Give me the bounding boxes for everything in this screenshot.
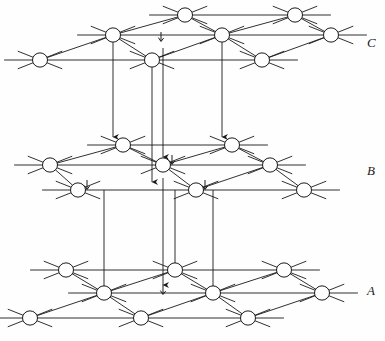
bond-stub-diagonal xyxy=(101,136,116,142)
bond-stub-diagonal xyxy=(163,6,178,12)
bond-stub-diagonal xyxy=(182,261,197,267)
bond-stub-diagonal xyxy=(192,6,207,12)
atom-node xyxy=(263,158,278,172)
layer-label-b: B xyxy=(367,164,375,177)
bond-stub-diagonal xyxy=(226,309,241,315)
atom-node xyxy=(168,263,183,277)
bond-stub-diagonal xyxy=(210,136,225,142)
bond-stub-diagonal xyxy=(170,168,185,174)
atom-node xyxy=(156,158,171,172)
bond-stub-diagonal xyxy=(240,63,255,69)
atom-node xyxy=(255,53,270,67)
bond-oblique xyxy=(192,19,216,32)
bond-stub-diagonal xyxy=(203,193,218,199)
bond-oblique xyxy=(119,39,145,56)
bond-stub-diagonal xyxy=(282,193,297,199)
bond-stub-diagonal xyxy=(47,63,62,69)
bond-stub-diagonal xyxy=(338,26,353,32)
bond-stub-diagonal xyxy=(174,181,189,187)
bond-stub-diagonal xyxy=(220,284,235,290)
atom-node xyxy=(288,8,303,22)
bond-stub-diagonal xyxy=(130,148,145,154)
bond-stub-diagonal xyxy=(141,168,156,174)
bond-stub-diagonal xyxy=(220,296,235,302)
bond-oblique xyxy=(120,17,178,33)
atom-node xyxy=(178,8,193,22)
bond-stub-diagonal xyxy=(309,38,324,44)
bond-stub-diagonal xyxy=(28,156,43,162)
bond-stub-diagonal xyxy=(159,51,174,57)
bond-stub-diagonal xyxy=(329,284,344,290)
bond-oblique xyxy=(110,297,135,314)
bond-oblique xyxy=(255,295,315,315)
atom-node xyxy=(215,28,230,42)
bond-stub-diagonal xyxy=(130,136,145,142)
atom-node xyxy=(145,53,160,67)
bond-stub-diagonal xyxy=(47,51,62,57)
bond-stub-diagonal xyxy=(148,309,163,315)
bond-oblique xyxy=(170,147,225,163)
bond-stub-diagonal xyxy=(153,273,168,279)
atom-node xyxy=(71,183,86,197)
bond-stub-diagonal xyxy=(277,156,292,162)
atom-node xyxy=(225,138,240,152)
bond-stub-diagonal xyxy=(37,321,52,327)
bond-oblique xyxy=(181,274,206,289)
bond-stub-diagonal xyxy=(73,261,88,267)
bond-stub-diagonal xyxy=(82,296,97,302)
bond-stub-diagonal xyxy=(8,309,23,315)
bond-stub-diagonal xyxy=(44,273,59,279)
atom-node xyxy=(277,263,292,277)
atom-node xyxy=(241,311,256,325)
bond-stub-diagonal xyxy=(255,309,270,315)
bond-oblique xyxy=(239,148,264,161)
bond-stub-diagonal xyxy=(269,63,284,69)
atom-node xyxy=(189,183,204,197)
bond-oblique xyxy=(111,272,168,290)
bond-stub-diagonal xyxy=(174,193,189,199)
bond-stub-diagonal xyxy=(273,6,288,12)
bond-oblique xyxy=(203,167,263,187)
bond-stub-diagonal xyxy=(111,284,126,290)
bond-stub-diagonal xyxy=(311,193,326,199)
atom-node xyxy=(43,158,58,172)
atom-node xyxy=(315,286,330,300)
bond-stub-diagonal xyxy=(291,261,306,267)
bond-stub-diagonal xyxy=(56,193,71,199)
bond-stub-diagonal xyxy=(8,321,23,327)
bond-stub-diagonal xyxy=(91,26,106,32)
bond-stub-diagonal xyxy=(200,38,215,44)
atom-node xyxy=(206,286,221,300)
lattice-figure: C B A xyxy=(0,0,385,341)
atom-node xyxy=(97,286,112,300)
bond-stub-diagonal xyxy=(226,321,241,327)
bond-oblique xyxy=(302,19,325,32)
atom-node xyxy=(297,183,312,197)
bond-stub-diagonal xyxy=(148,321,163,327)
bond-oblique xyxy=(37,295,97,315)
bond-oblique xyxy=(290,274,315,289)
bond-oblique xyxy=(148,295,206,315)
bond-stub-diagonal xyxy=(311,181,326,187)
atom-node xyxy=(324,28,339,42)
bond-stub-diagonal xyxy=(28,168,43,174)
bond-stub-diagonal xyxy=(302,6,317,12)
atom-node-group xyxy=(23,8,339,325)
bond-stub-diagonal xyxy=(44,261,59,267)
bond-stub-diagonal xyxy=(239,136,254,142)
bond-stub-diagonal xyxy=(255,321,270,327)
bond-oblique xyxy=(57,147,116,163)
bond-stub-diagonal xyxy=(91,38,106,44)
bond-oblique xyxy=(228,39,255,56)
lattice-diagram-svg xyxy=(0,0,385,341)
bond-stub-diagonal xyxy=(262,261,277,267)
atom-node xyxy=(23,311,38,325)
bond-stub-diagonal xyxy=(191,296,206,302)
bond-stub-diagonal xyxy=(119,321,134,327)
bond-stub-diagonal xyxy=(159,63,174,69)
bond-stub-diagonal xyxy=(153,261,168,267)
atom-node xyxy=(116,138,131,152)
bond-stub-diagonal xyxy=(329,296,344,302)
bond-oblique xyxy=(220,272,277,290)
bond-stub-diagonal xyxy=(282,181,297,187)
